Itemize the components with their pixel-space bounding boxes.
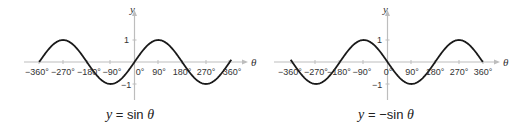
x-tick-label: 360° xyxy=(223,67,242,77)
x-tick-label: −180° xyxy=(327,67,351,77)
y-tick-label-neg1: −1 xyxy=(121,80,131,90)
x-tick-label: 180° xyxy=(173,67,192,77)
x-tick-label: 270° xyxy=(450,67,469,77)
x-axis-arrow-icon xyxy=(494,60,500,65)
x-tick-label: 90° xyxy=(405,67,419,77)
x-tick-label: 360° xyxy=(474,67,493,77)
y-tick-label-1: 1 xyxy=(377,35,382,45)
x-axis-arrow-icon xyxy=(242,60,248,65)
equation-neg-sin: y = −sin θ xyxy=(358,107,414,123)
neg-sin-graph-panel: y θ 1 −1 −360° −270° −180° −90° 0° 90° 1… xyxy=(264,0,528,131)
x-tick-label: −90° xyxy=(103,67,122,77)
x-tick-label: −270° xyxy=(304,67,328,77)
y-tick-label-neg1: −1 xyxy=(372,80,382,90)
x-tick-label: 270° xyxy=(197,67,216,77)
x-tick-label: 0° xyxy=(384,67,393,77)
equation-sin: y = sin θ xyxy=(106,107,154,123)
x-tick-label: −360° xyxy=(278,67,302,77)
y-tick-label-1: 1 xyxy=(124,35,129,45)
sin-graph-panel: y θ 1 −1 −360° −270° −180° −90° 0° 90° 1… xyxy=(0,0,264,131)
x-axis-label: θ xyxy=(251,56,256,68)
x-tick-label: 0° xyxy=(136,67,145,77)
x-tick-label: −180° xyxy=(77,67,101,77)
y-axis-label: y xyxy=(130,3,135,15)
x-tick-label: 90° xyxy=(152,67,166,77)
x-tick-label: −270° xyxy=(51,67,75,77)
y-axis-label: y xyxy=(383,3,388,15)
x-tick-label: −360° xyxy=(25,67,49,77)
x-tick-label: 180° xyxy=(426,67,445,77)
x-tick-label: −90° xyxy=(353,67,372,77)
x-axis-label: θ xyxy=(503,56,508,68)
